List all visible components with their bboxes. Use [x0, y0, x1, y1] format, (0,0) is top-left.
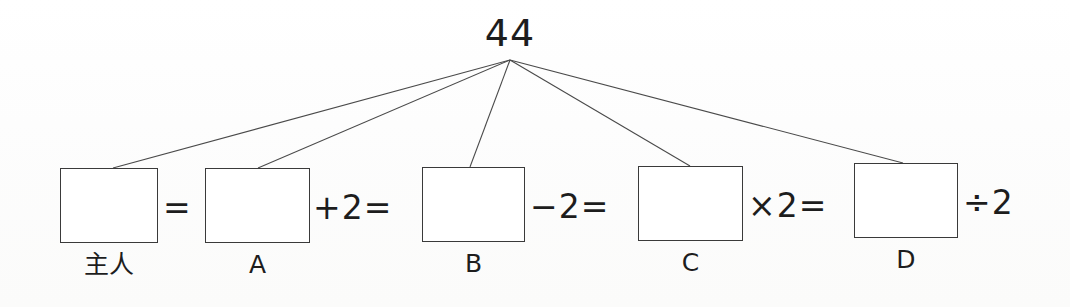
- connector-line-c: [510, 60, 690, 166]
- answer-box-a[interactable]: [205, 168, 310, 243]
- box-label-owner: 主人: [60, 250, 158, 280]
- operator-eq-1: =: [163, 190, 192, 226]
- box-label-d: D: [854, 245, 958, 275]
- answer-box-b[interactable]: [422, 167, 525, 242]
- operator-plus-2-eq: +2=: [313, 190, 392, 226]
- operator-times-2-eq: ×2=: [748, 188, 827, 224]
- connector-line-d: [510, 60, 903, 163]
- answer-box-c[interactable]: [638, 166, 743, 241]
- box-label-b: B: [422, 249, 525, 279]
- answer-box-d[interactable]: [854, 163, 958, 238]
- connector-line-b: [470, 60, 510, 167]
- box-label-a: A: [205, 250, 310, 280]
- operator-divide-2: ÷2: [963, 185, 1014, 221]
- connector-line-owner: [113, 60, 510, 168]
- operator-minus-2-eq: −2=: [530, 189, 609, 225]
- connector-group: [113, 60, 903, 168]
- connector-line-a: [258, 60, 510, 168]
- box-label-c: C: [638, 248, 743, 278]
- answer-box-owner[interactable]: [60, 168, 158, 243]
- worksheet-diagram: 44 主人ABCD =+2=−2=×2=÷2: [0, 0, 1070, 307]
